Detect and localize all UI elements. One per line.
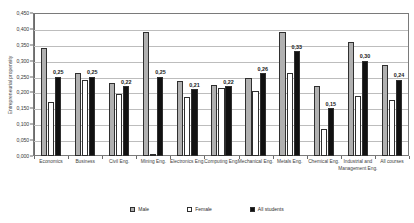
bar-all <box>191 89 197 156</box>
bar-value-label: 0,25 <box>155 69 166 75</box>
legend-swatch-icon <box>250 207 255 212</box>
bar-female <box>48 102 54 156</box>
bar-value-label: 0,30 <box>360 53 371 59</box>
x-tick-mark <box>273 156 274 159</box>
bar-group <box>136 13 170 156</box>
bar-male <box>143 32 149 156</box>
bar-value-label: 0,22 <box>121 79 132 85</box>
bar-value-label: 0,15 <box>326 101 337 107</box>
bar-all <box>328 108 334 156</box>
bar-male <box>211 85 217 157</box>
legend-label: Female <box>195 206 212 212</box>
legend-item-all[interactable]: All students <box>250 206 284 212</box>
bar-group <box>68 13 102 156</box>
bar-male <box>279 32 285 156</box>
bar-group <box>375 13 409 156</box>
bar-all <box>157 77 163 156</box>
bar-value-label: 0,26 <box>257 66 268 72</box>
bar-female <box>82 80 88 156</box>
bar-male <box>245 78 251 156</box>
bar-female <box>184 97 190 156</box>
bar-value-label: 0,22 <box>223 79 234 85</box>
bar-all <box>396 80 402 156</box>
bar-male <box>348 42 354 156</box>
x-tick-mark <box>341 156 342 159</box>
bar-all <box>294 51 300 156</box>
bar-male <box>314 86 320 156</box>
bar-all <box>89 77 95 156</box>
legend-label: Male <box>138 206 149 212</box>
bar-value-label: 0,21 <box>189 82 200 88</box>
x-tick-mark <box>68 156 69 159</box>
bar-all <box>260 73 266 156</box>
x-tick-mark <box>102 156 103 159</box>
legend-swatch-icon <box>187 207 192 212</box>
bar-male <box>41 48 47 156</box>
legend-label: All students <box>258 206 284 212</box>
bar-all <box>55 77 61 156</box>
bar-male <box>177 81 183 156</box>
bar-female <box>355 96 361 156</box>
x-tick-mark <box>170 156 171 159</box>
y-tick-label: 0,450 <box>17 10 29 16</box>
bar-group <box>239 13 273 156</box>
x-tick-mark <box>375 156 376 159</box>
bar-female <box>252 91 258 156</box>
y-axis: 0,4500,4000,3500,3000,2500,2000,1500,100… <box>0 13 33 156</box>
bar-all <box>362 61 368 156</box>
x-tick-mark <box>34 156 35 159</box>
x-tick-mark <box>239 156 240 159</box>
bar-value-label: 0,25 <box>53 69 64 75</box>
x-tick-mark <box>204 156 205 159</box>
x-tick-mark <box>136 156 137 159</box>
bar-group <box>307 13 341 156</box>
x-tick-mark <box>409 156 410 159</box>
y-tick-label: 0,050 <box>17 137 29 143</box>
bar-chart: Entrepreneurial propensity 0,4500,4000,3… <box>0 0 414 223</box>
bar-group <box>34 13 68 156</box>
bars-layer: 0,250,250,220,250,210,220,260,330,150,30… <box>34 13 409 156</box>
bar-female <box>389 100 395 156</box>
legend-item-female[interactable]: Female <box>187 206 212 212</box>
bar-group <box>273 13 307 156</box>
bar-female <box>150 154 156 156</box>
y-tick-label: 0,200 <box>17 89 29 95</box>
y-tick-label: 0,000 <box>17 153 29 159</box>
y-tick-label: 0,350 <box>17 42 29 48</box>
bar-female <box>287 73 293 156</box>
x-tick-mark <box>307 156 308 159</box>
chart-legend: MaleFemaleAll students <box>0 206 414 212</box>
bar-value-label: 0,25 <box>87 69 98 75</box>
bar-female <box>321 129 327 156</box>
x-axis-labels: EconomicsBusinessCivil Eng.Mining Eng.El… <box>34 159 409 201</box>
bar-all <box>123 86 129 156</box>
bar-value-label: 0,33 <box>292 44 303 50</box>
bar-value-label: 0,24 <box>394 72 405 78</box>
y-tick-label: 0,100 <box>17 121 29 127</box>
y-tick-label: 0,300 <box>17 58 29 64</box>
bar-female <box>218 88 224 156</box>
bar-group <box>341 13 375 156</box>
legend-swatch-icon <box>130 207 135 212</box>
bar-all <box>225 86 231 156</box>
bar-female <box>116 94 122 156</box>
y-tick-label: 0,150 <box>17 105 29 111</box>
y-tick-label: 0,250 <box>17 74 29 80</box>
x-tick-label: All courses <box>371 159 413 166</box>
bar-male <box>75 73 81 156</box>
y-tick-label: 0,400 <box>17 26 29 32</box>
legend-item-male[interactable]: Male <box>130 206 149 212</box>
bar-male <box>109 83 115 156</box>
bar-male <box>382 65 388 156</box>
